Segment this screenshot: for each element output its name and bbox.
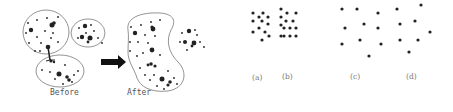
- standalone-cluster-dots: [179, 29, 205, 51]
- pattern-c: [340, 7, 382, 57]
- cluster-dots-top-right: [77, 24, 103, 44]
- before-clusters: Before: [23, 10, 105, 97]
- cluster-dots-top-left: [25, 16, 59, 52]
- after-label: After: [127, 88, 151, 97]
- pattern-d: [395, 3, 431, 53]
- pattern-a: [251, 11, 270, 41]
- cluster-dots-bottom: [41, 59, 79, 85]
- before-label: Before: [50, 88, 79, 97]
- cluster-merge-diagram: Before: [0, 0, 453, 112]
- right-arrow-icon: [101, 55, 126, 69]
- merged-cluster-outline: [128, 13, 184, 91]
- label-c: (c): [350, 72, 360, 81]
- label-d: (d): [406, 72, 417, 81]
- pattern-b: [279, 7, 297, 37]
- label-b: (b): [282, 72, 293, 81]
- after-clusters: After: [127, 13, 205, 97]
- cluster-outline-bottom: [36, 55, 84, 87]
- label-a: (a): [252, 73, 262, 82]
- merged-cluster-dots: [129, 19, 178, 90]
- merge-link: [48, 47, 50, 60]
